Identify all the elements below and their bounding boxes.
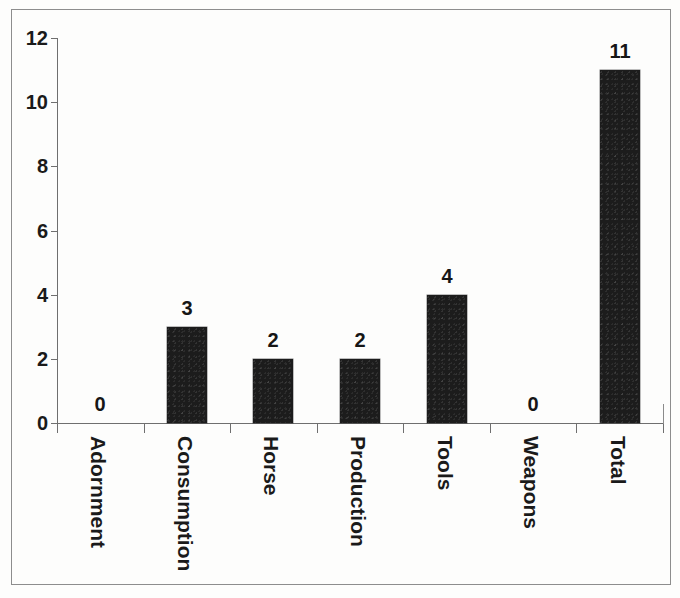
y-axis-tick-label: 8 <box>8 156 48 176</box>
bar-value-label: 4 <box>404 266 490 286</box>
bar <box>427 295 467 423</box>
bar <box>340 359 380 423</box>
plot-right-edge <box>663 404 664 424</box>
x-axis-category-label: Tools <box>435 436 456 586</box>
bar-value-label: 3 <box>144 298 230 318</box>
x-axis-tick <box>317 424 318 433</box>
bar-value-label: 0 <box>57 394 143 414</box>
y-axis-tick <box>51 102 58 103</box>
x-axis-tick <box>576 424 577 433</box>
bar-value-label: 11 <box>577 41 663 61</box>
bar-value-label: 0 <box>490 394 576 414</box>
x-axis-category-label: Horse <box>261 436 282 586</box>
y-axis-tick-label: 4 <box>8 285 48 305</box>
x-axis-tick <box>663 424 664 433</box>
y-axis-tick <box>51 166 58 167</box>
y-axis-tick-labels: 024681012 <box>0 0 48 598</box>
bar <box>167 327 207 423</box>
bar-value-label: 2 <box>230 330 316 350</box>
bar <box>253 359 293 423</box>
y-axis-tick <box>51 295 58 296</box>
x-axis-category-label: Total <box>608 436 629 586</box>
scanned-page: 024681012 03224011 AdornmentConsumptionH… <box>0 0 680 598</box>
y-axis-tick-label: 12 <box>8 28 48 48</box>
bar <box>600 70 640 423</box>
x-axis-tick <box>230 424 231 433</box>
bar-chart: 024681012 03224011 AdornmentConsumptionH… <box>0 0 680 598</box>
x-axis-tick <box>57 424 58 433</box>
x-axis-tick <box>144 424 145 433</box>
y-axis-tick-label: 2 <box>8 349 48 369</box>
y-axis-tick-label: 6 <box>8 221 48 241</box>
x-axis-line <box>57 423 664 424</box>
y-axis-tick-label: 0 <box>8 413 48 433</box>
y-axis-tick-label: 10 <box>8 92 48 112</box>
x-axis-tick <box>490 424 491 433</box>
x-axis-category-label: Consumption <box>175 436 196 586</box>
y-axis-tick <box>51 231 58 232</box>
x-axis-tick <box>403 424 404 433</box>
x-axis-category-label: Production <box>348 436 369 586</box>
y-axis-tick <box>51 38 58 39</box>
y-axis-tick <box>51 359 58 360</box>
bar-value-label: 2 <box>317 330 403 350</box>
x-axis-category-label: Weapons <box>521 436 542 586</box>
x-axis-category-label: Adornment <box>88 436 109 586</box>
